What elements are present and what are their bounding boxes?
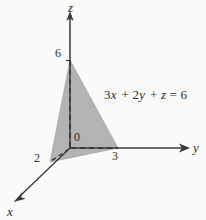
plane-figure — [0, 0, 206, 220]
plane-region — [50, 60, 118, 162]
x-axis-arrowhead — [14, 192, 26, 202]
x-axis-line — [20, 148, 70, 196]
z-axis-label: z — [68, 1, 73, 14]
equation-rhs: 6 — [181, 87, 188, 102]
equation-term3-var: z — [161, 87, 166, 102]
x-axis-label: x — [7, 205, 13, 218]
y-axis-label: y — [193, 141, 199, 154]
equation-term1-coeff: 3 — [104, 87, 111, 102]
x-intercept-label: 2 — [34, 152, 40, 164]
equation-plus-2: + — [150, 87, 158, 102]
plane-equation-label: 3x + 2y + z = 6 — [104, 88, 187, 101]
z-intercept-label: 6 — [55, 47, 61, 59]
equation-equals: = — [170, 87, 178, 102]
equation-plus-1: + — [121, 87, 129, 102]
origin-label: 0 — [74, 131, 80, 143]
y-intercept-label: 3 — [112, 150, 118, 162]
